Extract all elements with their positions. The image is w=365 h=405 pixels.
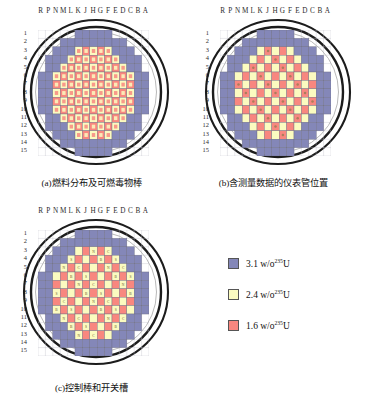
instrument-tube-marker: [289, 108, 292, 111]
core-cell: [126, 55, 133, 63]
control-rod-label: N: [106, 266, 109, 270]
core-cell: [301, 46, 308, 54]
core-cell: [257, 55, 264, 63]
core-cell: [119, 139, 126, 147]
column-label-F: F: [104, 207, 111, 215]
core-cell: [227, 122, 234, 130]
fuel-marker: [84, 49, 87, 53]
core-cell: [126, 255, 133, 263]
instrument-tube-marker: [281, 133, 284, 136]
control-rod-label: S: [70, 308, 72, 312]
core-cell: [264, 105, 271, 113]
column-header-a: RPNMLKJHGFEDCBA: [37, 7, 149, 15]
core-cell: [60, 280, 67, 288]
column-label-L: L: [67, 207, 74, 215]
core-cell: [134, 122, 141, 130]
column-label-P: P: [226, 7, 233, 15]
core-cell: [279, 80, 286, 88]
core-cell: [60, 330, 67, 338]
core-cell: [82, 305, 89, 313]
fuel-marker: [113, 124, 116, 128]
fuel-marker: [113, 116, 116, 120]
core-cell: [279, 122, 286, 130]
core-cell: [323, 88, 330, 96]
core-cell: [249, 46, 256, 54]
core-cell: [67, 314, 74, 322]
core-cell: [271, 46, 278, 54]
core-cell: [67, 139, 74, 147]
core-cell: [294, 63, 301, 71]
core-cell: [45, 263, 52, 271]
fuel-marker: [76, 57, 79, 61]
core-cell: [126, 330, 133, 338]
column-label-J: J: [82, 7, 89, 15]
fuel-marker: [128, 99, 131, 103]
core-cell: [134, 114, 141, 122]
fuel-marker: [62, 91, 65, 95]
core-cell: [316, 80, 323, 88]
control-rod-label: N: [106, 316, 109, 320]
core-cell: [134, 55, 141, 63]
column-label-R: R: [37, 207, 44, 215]
core-cell: [45, 272, 52, 280]
core-cell: [119, 272, 126, 280]
core-cell: [89, 30, 96, 38]
core-map-a: [38, 30, 149, 156]
core-cell: [104, 139, 111, 147]
column-label-B: B: [134, 7, 141, 15]
column-label-E: E: [112, 7, 119, 15]
core-cell: [316, 97, 323, 105]
core-cell: [134, 280, 141, 288]
core-cell: [45, 88, 52, 96]
core-cell: [45, 322, 52, 330]
core-cell: [264, 88, 271, 96]
core-cell: [82, 147, 89, 155]
core-cell: [271, 72, 278, 80]
core-cell: [89, 272, 96, 280]
fuel-marker: [106, 107, 109, 111]
core-cell: [97, 139, 104, 147]
legend-label-31: 3.1 w/o235U: [246, 258, 290, 269]
core-cell: [134, 255, 141, 263]
column-label-K: K: [256, 7, 263, 15]
core-cell: [257, 88, 264, 96]
core-cell: [301, 63, 308, 71]
fuel-marker: [62, 116, 65, 120]
core-cell: [264, 139, 271, 147]
fuel-marker: [106, 74, 109, 78]
core-cell: [67, 130, 74, 138]
core-cell: [227, 55, 234, 63]
column-label-N: N: [234, 7, 241, 15]
fuel-marker: [76, 65, 79, 69]
core-cell: [52, 46, 59, 54]
core-cell: [242, 139, 249, 147]
core-cell: [301, 97, 308, 105]
core-cell: [294, 55, 301, 63]
column-label-A: A: [324, 7, 331, 15]
fuel-marker: [99, 99, 102, 103]
fuel-marker: [54, 82, 57, 86]
core-cell: [60, 322, 67, 330]
core-cell: [45, 314, 52, 322]
column-label-H: H: [271, 7, 278, 15]
instrument-tube-marker: [252, 66, 255, 69]
column-label-E: E: [294, 7, 301, 15]
core-cell: [257, 97, 264, 105]
core-cell: [119, 38, 126, 46]
core-cell: [294, 88, 301, 96]
core-cell: [257, 38, 264, 46]
panel-a-caption: (a)燃料分布及可燃毒物棒: [0, 175, 183, 189]
core-cell: [52, 314, 59, 322]
core-cell: [97, 272, 104, 280]
core-cell: [271, 114, 278, 122]
core-cell: [271, 139, 278, 147]
fuel-marker: [91, 107, 94, 111]
fuel-marker: [106, 65, 109, 69]
core-cell: [286, 55, 293, 63]
control-rod-label: S: [85, 274, 87, 278]
core-cell: [249, 72, 256, 80]
core-cell: [242, 105, 249, 113]
fuel-marker: [99, 65, 102, 69]
core-cell: [97, 347, 104, 355]
core-cell: [82, 30, 89, 38]
